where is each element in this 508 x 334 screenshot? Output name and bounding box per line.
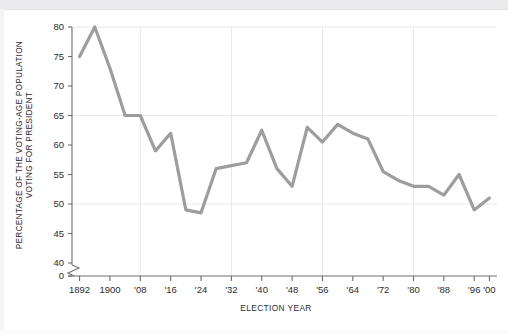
x-axis-tick-label: '40 <box>256 284 268 295</box>
y-axis-tick-label: 40 <box>53 257 64 268</box>
data-series-line <box>80 27 490 213</box>
x-axis-tick-label: '80 <box>407 284 419 295</box>
x-axis-tick-label: 1892 <box>69 284 90 295</box>
x-axis-tick-label: '24 <box>195 284 207 295</box>
x-axis-title-text: ELECTION YEAR <box>196 303 311 313</box>
y-axis-tick-label: 45 <box>53 228 64 239</box>
y-axis-tick-label: 50 <box>53 198 64 209</box>
y-axis-tick-label: 0 <box>59 270 64 281</box>
x-axis-tick-label: '16 <box>164 284 176 295</box>
x-axis-tick-label: '32 <box>225 284 237 295</box>
x-axis-title: ELECTION YEAR <box>0 303 508 313</box>
x-axis-tick-label: '72 <box>377 284 389 295</box>
x-axis-tick-label: '96 <box>468 284 480 295</box>
y-axis-tick-label: 60 <box>53 139 64 150</box>
y-axis-tick-label: 80 <box>53 21 64 32</box>
y-axis-break-icon <box>68 265 79 276</box>
x-axis-tick-label: 1900 <box>99 284 120 295</box>
y-axis-tick-label: 75 <box>53 51 64 62</box>
x-axis-tick-label: '08 <box>134 284 146 295</box>
x-axis-tick-label: '88 <box>438 284 450 295</box>
x-axis-tick-label: '56 <box>316 284 328 295</box>
y-axis-tick-label: 70 <box>53 80 64 91</box>
y-axis-tick-label: 55 <box>53 169 64 180</box>
x-axis-tick-label: '48 <box>286 284 298 295</box>
y-axis-tick-label: 65 <box>53 110 64 121</box>
x-axis-tick-label: '00 <box>483 284 495 295</box>
chart-figure: PERCENTAGE OF THE VOTING-AGE POPULATION … <box>0 0 508 334</box>
x-axis-tick-label: '64 <box>347 284 359 295</box>
line-chart-plot: 807570656055504540018921900'08'16'24'32'… <box>0 0 508 334</box>
